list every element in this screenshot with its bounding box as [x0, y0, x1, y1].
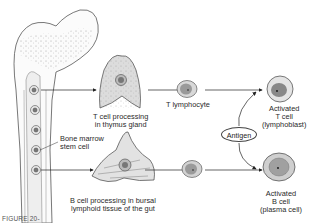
bone-marrow-label: Bone marrow stem cell [60, 135, 104, 151]
bone-icon [14, 10, 98, 223]
activated-t-cell-icon [267, 76, 293, 102]
bursal-label: B cell processing in bursal lymphoid tis… [70, 197, 156, 213]
diagram-canvas: T cell processing in thymus gland T lymp… [0, 0, 318, 223]
activated-b-line3: (plasma cell) [260, 206, 302, 214]
b-lymphocyte-cell-icon [182, 161, 202, 178]
thymus-gland-icon [100, 55, 141, 108]
activated-t-label: Activated T cell (lymphoblast) [262, 105, 306, 129]
thymus-label-line2: in thymus gland [93, 121, 148, 129]
activated-t-line3: (lymphoblast) [262, 121, 306, 129]
antigen-label: Antigen [221, 127, 257, 142]
thymus-label: T cell processing in thymus gland [93, 113, 148, 129]
t-lymphocyte-cell-icon [177, 81, 197, 98]
bursal-line2: lymphoid tissue of the gut [70, 205, 156, 213]
figure-caption: FIGURE 20- [2, 215, 40, 222]
bone-marrow-line2: stem cell [60, 143, 104, 151]
activated-b-label: Activated B cell (plasma cell) [260, 190, 302, 214]
t-lymphocyte-label: T lymphocyte [166, 101, 210, 109]
activated-b-cell-icon [263, 153, 295, 181]
